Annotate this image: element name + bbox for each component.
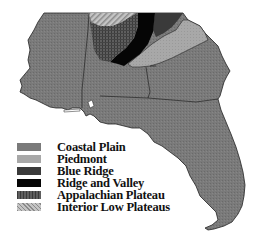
piedmont-swatch-icon [17,155,41,163]
blue-ridge-swatch-icon [17,167,41,175]
legend-item-interior-low-plateaus: Interior Low Plateaus [17,201,170,213]
interior-low-plateaus-swatch-icon [17,203,41,211]
legend-label: Interior Low Plateaus [57,201,170,213]
map-legend: Coastal Plain Piedmont Blue Ridge Ridge … [17,141,170,213]
coastal-plain-swatch-icon [17,143,41,151]
ridge-and-valley-swatch-icon [17,179,41,187]
appalachian-plateau-swatch-icon [17,191,41,199]
